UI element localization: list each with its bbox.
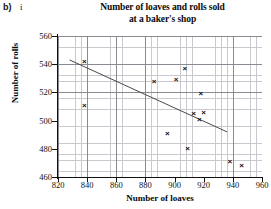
- y-axis-tick: [52, 64, 58, 65]
- data-point: ×: [197, 90, 204, 97]
- x-axis-tick-label: 920: [189, 180, 219, 190]
- y-axis-tick-label: 500: [22, 116, 52, 126]
- y-axis-label: Number of rolls: [10, 18, 20, 128]
- y-axis-tick-label: 520: [22, 87, 52, 97]
- data-point: ×: [181, 65, 188, 72]
- x-axis-tick-label: 940: [218, 180, 248, 190]
- y-axis-tick: [52, 92, 58, 93]
- x-axis-tick-label: 860: [101, 180, 131, 190]
- y-axis-tick: [52, 36, 58, 37]
- y-axis-tick: [52, 121, 58, 122]
- y-axis-tick-label: 480: [22, 144, 52, 154]
- chart-title-line-1: Number of loaves and rolls sold: [60, 1, 265, 13]
- question-part-label: b): [3, 2, 12, 12]
- y-axis-tick: [52, 149, 58, 150]
- trend-line-svg: [58, 36, 262, 177]
- x-axis-tick-label: 900: [160, 180, 190, 190]
- x-axis-label: Number of loaves: [58, 193, 262, 203]
- data-point: ×: [81, 102, 88, 109]
- y-axis-tick-label: 560: [22, 31, 52, 41]
- y-axis-line: [57, 34, 58, 179]
- x-axis-tick-label: 960: [247, 180, 271, 190]
- x-axis-tick-label: 840: [72, 180, 102, 190]
- data-point: ×: [81, 58, 88, 65]
- data-point: ×: [164, 130, 171, 137]
- chart-title: Number of loaves and rolls sold at a bak…: [60, 1, 265, 25]
- data-point: ×: [196, 116, 203, 123]
- data-point: ×: [173, 76, 180, 83]
- data-point: ×: [226, 158, 233, 165]
- question-sub-label: i: [20, 2, 23, 12]
- data-point: ×: [184, 145, 191, 152]
- data-point: ×: [200, 109, 207, 116]
- y-axis-tick-label: 540: [22, 59, 52, 69]
- x-axis-tick-label: 880: [130, 180, 160, 190]
- x-axis-tick-label: 820: [43, 180, 73, 190]
- chart-title-line-2: at a baker's shop: [60, 13, 265, 25]
- data-point: ×: [238, 162, 245, 169]
- data-point: ×: [151, 78, 158, 85]
- plot-area: ×××××××××××××: [58, 36, 262, 177]
